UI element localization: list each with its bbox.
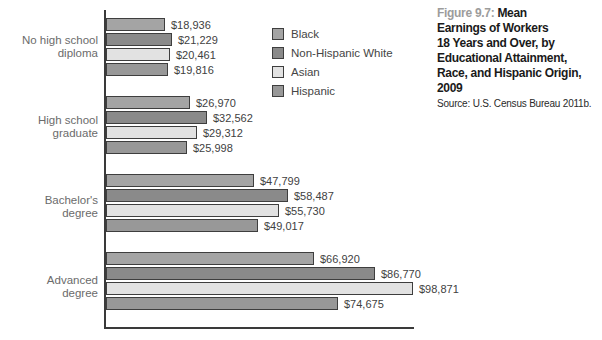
legend-label-black: Black [291, 28, 319, 40]
bar-asian [106, 282, 413, 295]
bar-value-label: $18,936 [171, 19, 211, 31]
bar-row: $25,998 [106, 141, 459, 154]
bar-black [106, 174, 254, 187]
bar-value-label: $66,920 [320, 253, 360, 265]
bar-row: $32,562 [106, 111, 459, 124]
bar-value-label: $25,998 [193, 142, 233, 154]
bar-row: $74,675 [106, 297, 459, 310]
bar-row: $55,730 [106, 204, 459, 217]
bar-row: $66,920 [106, 252, 459, 265]
figure-caption: Figure 9.7: Mean Earnings of Workers 18 … [437, 6, 600, 110]
bar-black [106, 18, 165, 31]
bar-value-label: $58,487 [294, 190, 334, 202]
legend-item-non-hispanic-white: Non-Hispanic White [272, 46, 393, 59]
figure-9-7-bar-chart: No high school diploma High school gradu… [0, 0, 602, 340]
bar-value-label: $21,229 [178, 34, 218, 46]
bar-non-hispanic-white [106, 33, 172, 46]
bar-group: $47,799$58,487$55,730$49,017 [106, 174, 459, 232]
bar-hispanic [106, 219, 258, 232]
bar-hispanic [106, 141, 187, 154]
bar-value-label: $26,970 [196, 97, 236, 109]
source-note: Source: U.S. Census Bureau 2011b. [437, 98, 600, 110]
bar-black [106, 96, 190, 109]
bar-non-hispanic-white [106, 111, 207, 124]
legend-item-asian: Asian [272, 65, 393, 78]
bar-row: $98,871 [106, 282, 459, 295]
figure-number-label: Figure 9.7: [437, 6, 497, 20]
bar-asian [106, 126, 197, 139]
bar-value-label: $47,799 [260, 175, 300, 187]
legend-swatch-non-hispanic-white-icon [272, 47, 284, 59]
bar-value-label: $49,017 [264, 220, 304, 232]
legend-item-black: Black [272, 27, 393, 40]
category-label-advanced: Advanced degree [0, 274, 98, 300]
bar-value-label: $86,770 [381, 268, 421, 280]
legend-swatch-asian-icon [272, 66, 284, 78]
category-label-bachelors: Bachelor's degree [0, 194, 98, 220]
bar-group: $26,970$32,562$29,312$25,998 [106, 96, 459, 154]
bar-asian [106, 204, 279, 217]
bar-row: $58,487 [106, 189, 459, 202]
bar-hispanic [106, 63, 168, 76]
bar-value-label: $20,461 [176, 49, 216, 61]
category-label-no-high-school: No high school diploma [0, 34, 98, 60]
bar-value-label: $19,816 [174, 64, 214, 76]
category-label-high-school: High school graduate [0, 114, 98, 140]
legend: Black Non-Hispanic White Asian Hispanic [272, 27, 393, 103]
bar-asian [106, 48, 170, 61]
legend-label-hispanic: Hispanic [291, 85, 335, 97]
bar-black [106, 252, 314, 265]
bar-value-label: $32,562 [213, 112, 253, 124]
bar-value-label: $98,871 [419, 283, 459, 295]
bar-value-label: $29,312 [203, 127, 243, 139]
bar-non-hispanic-white [106, 267, 375, 280]
legend-label-non-hispanic-white: Non-Hispanic White [291, 47, 393, 59]
bar-row: $49,017 [106, 219, 459, 232]
bar-row: $47,799 [106, 174, 459, 187]
bar-value-label: $55,730 [285, 205, 325, 217]
legend-swatch-hispanic-icon [272, 85, 284, 97]
legend-item-hispanic: Hispanic [272, 84, 393, 97]
bar-row: $29,312 [106, 126, 459, 139]
bar-group: $66,920$86,770$98,871$74,675 [106, 252, 459, 310]
legend-label-asian: Asian [291, 66, 320, 78]
bar-hispanic [106, 297, 338, 310]
legend-swatch-black-icon [272, 28, 284, 40]
bar-non-hispanic-white [106, 189, 288, 202]
bar-row: $86,770 [106, 267, 459, 280]
bar-value-label: $74,675 [344, 298, 384, 310]
